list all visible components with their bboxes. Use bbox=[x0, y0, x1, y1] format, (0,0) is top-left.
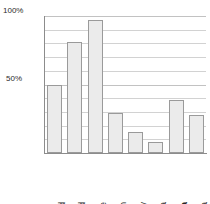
bar-spain bbox=[108, 113, 123, 153]
bar-tunisia bbox=[189, 115, 204, 153]
y-axis-line bbox=[44, 16, 45, 154]
x-axis-label-spain: Spain bbox=[119, 202, 128, 204]
bar-france bbox=[88, 20, 103, 153]
x-axis-label-holland: Holland bbox=[78, 202, 87, 204]
x-axis-label-malta: Malta bbox=[180, 202, 189, 204]
x-axis-label-italy: Italy bbox=[139, 202, 148, 204]
x-axis-label-sardinia: Sardinia bbox=[159, 202, 168, 204]
x-axis-category-labels: EnglandHollandFranceSpainItalySardiniaMa… bbox=[44, 154, 207, 204]
gridline-90 bbox=[44, 30, 206, 31]
x-axis-label-france: France bbox=[99, 202, 108, 204]
bar-malta bbox=[169, 100, 184, 153]
bar-chart: 100% 50% EnglandHollandFranceSpainItalyS… bbox=[0, 0, 210, 204]
x-axis-label-tunisia: Tunisia bbox=[200, 202, 209, 204]
y-axis-tick-label-50: 50% bbox=[6, 74, 22, 83]
plot-area bbox=[44, 16, 206, 153]
gridline-100 bbox=[44, 16, 206, 17]
x-axis-label-england: England bbox=[58, 202, 67, 204]
bar-holland bbox=[67, 42, 82, 153]
bar-italy bbox=[128, 132, 143, 153]
bar-england bbox=[47, 85, 62, 154]
y-axis-tick-label-100: 100% bbox=[3, 6, 23, 15]
bar-sardinia bbox=[148, 142, 163, 153]
